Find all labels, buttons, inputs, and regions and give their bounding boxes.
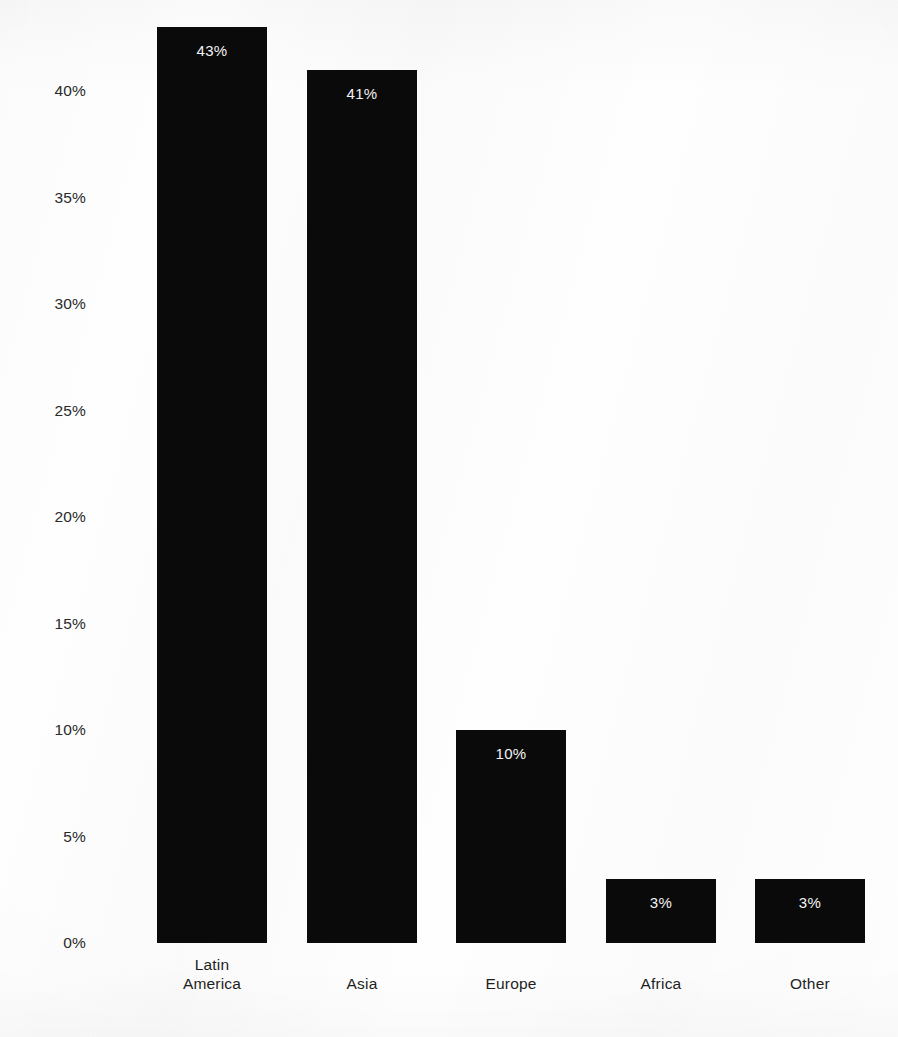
y-axis-tick-label: 30% (0, 296, 86, 312)
bar-asia[interactable] (307, 70, 417, 943)
x-axis-category-label-africa: Africa (581, 974, 741, 993)
bar-chart: 40%35%30%25%20%15%10%5%0% 43%Latin Ameri… (0, 0, 898, 1037)
y-axis-tick-label: 10% (0, 722, 86, 738)
bar-value-label-europe: 10% (456, 746, 566, 761)
y-axis-tick-label: 20% (0, 509, 86, 525)
bar-value-label-africa: 3% (606, 895, 716, 910)
bar-other[interactable] (755, 879, 865, 943)
x-axis-category-label-other: Other (730, 974, 890, 993)
y-axis-tick-label: 35% (0, 190, 86, 206)
bar-value-label-other: 3% (755, 895, 865, 910)
y-axis-tick-label: 5% (0, 829, 86, 845)
bar-latin-america[interactable] (157, 27, 267, 943)
bar-value-label-asia: 41% (307, 86, 417, 101)
y-axis-tick-label: 40% (0, 83, 86, 99)
y-axis-tick-label: 15% (0, 616, 86, 632)
x-axis-category-label-europe: Europe (431, 974, 591, 993)
y-axis: 40%35%30%25%20%15%10%5%0% (0, 0, 86, 1037)
x-axis-category-label-latin-america: Latin America (132, 955, 292, 993)
y-axis-tick-label: 25% (0, 403, 86, 419)
y-axis-tick-label: 0% (0, 935, 86, 951)
bar-africa[interactable] (606, 879, 716, 943)
x-axis-category-label-asia: Asia (282, 974, 442, 993)
bar-value-label-latin-america: 43% (157, 43, 267, 58)
plot-area: 40%35%30%25%20%15%10%5%0% 43%Latin Ameri… (0, 0, 898, 1037)
